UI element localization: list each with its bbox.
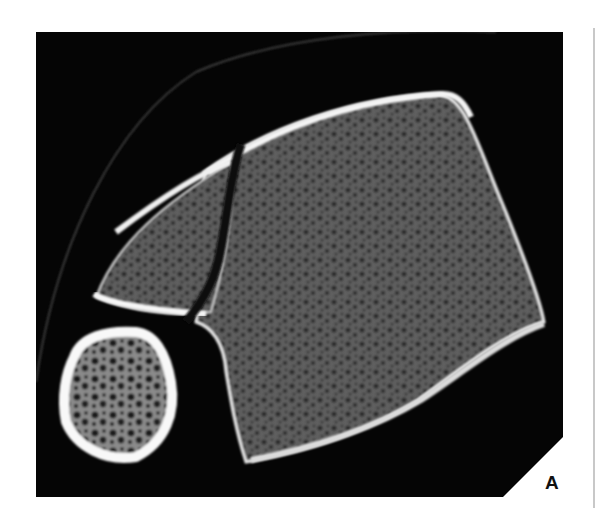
ct-scan-image bbox=[36, 32, 563, 497]
page-edge-divider bbox=[593, 28, 595, 508]
ct-image-panel bbox=[36, 32, 563, 497]
fibula-bone bbox=[64, 332, 172, 458]
panel-label: A bbox=[545, 473, 559, 492]
